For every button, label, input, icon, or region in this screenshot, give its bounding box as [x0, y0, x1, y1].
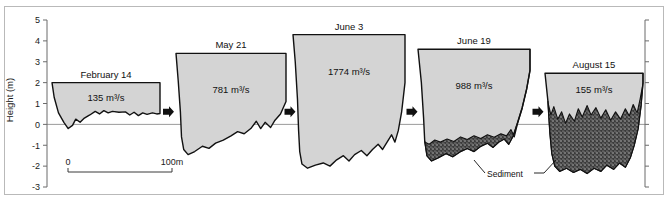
y-axis-tick-label: 3 — [35, 57, 40, 67]
y-axis-tick-label: 5 — [35, 15, 40, 25]
sediment-label: Sediment — [487, 169, 524, 179]
river-cross-section-figure: 543210-1-2-3 February 14135 m³/sMay 2178… — [0, 0, 668, 203]
y-axis-tick-label: 2 — [35, 78, 40, 88]
y-axis-tick-label: 1 — [35, 99, 40, 109]
panel-title-june-19: June 19 — [457, 35, 491, 46]
panel-discharge-june-3: 1774 m³/s — [328, 66, 370, 77]
panel-discharge-june-19: 988 m³/s — [456, 80, 493, 91]
panel-title-february-14: February 14 — [80, 69, 131, 80]
panel-title-june-3: June 3 — [335, 21, 364, 32]
panel-discharge-august-15: 155 m³/s — [576, 84, 613, 95]
cross-section-panel-august-15: August 15155 m³/s — [545, 59, 643, 173]
scale-bar-start-label: 0 — [65, 157, 70, 167]
y-axis-title: Height (m) — [4, 78, 15, 122]
panel-discharge-may-21: 781 m³/s — [213, 84, 250, 95]
y-axis-tick-label: -1 — [32, 141, 40, 151]
cross-section-diagram: 543210-1-2-3 February 14135 m³/sMay 2178… — [0, 0, 668, 203]
y-axis-tick-label: -2 — [32, 161, 40, 171]
panel-title-may-21: May 21 — [215, 39, 246, 50]
y-axis-tick-label: 4 — [35, 36, 40, 46]
panel-title-august-15: August 15 — [573, 59, 616, 70]
scale-bar-end-label: 100m — [161, 157, 184, 167]
y-axis-tick-label: -3 — [32, 182, 40, 192]
panel-discharge-february-14: 135 m³/s — [88, 92, 125, 103]
y-axis-tick-label: 0 — [35, 120, 40, 130]
